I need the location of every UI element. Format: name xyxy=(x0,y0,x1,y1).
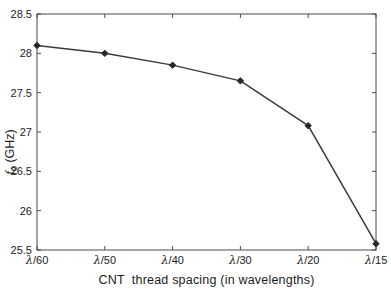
plot-area: 25.52626.52727.52828.5λ/60λ/50λ/40λ/30λ/… xyxy=(0,0,391,295)
y-tick-label: 27.5 xyxy=(11,87,32,99)
data-point-marker xyxy=(373,241,379,247)
x-tick-label: λ/40 xyxy=(160,253,184,267)
data-point-marker xyxy=(169,62,175,68)
data-line xyxy=(37,45,376,243)
plot-border xyxy=(37,14,376,250)
y-axis-label-units: (GHz) xyxy=(3,129,17,166)
data-point-marker xyxy=(102,50,108,56)
x-tick-label: λ/15 xyxy=(364,253,388,267)
y-tick-label: 27 xyxy=(20,126,32,138)
y-axis-label-f: f xyxy=(2,171,17,175)
x-axis-label: CNT thread spacing (in wavelengths) xyxy=(37,273,376,287)
x-tick-label: λ/50 xyxy=(93,253,117,267)
x-tick-label: λ/30 xyxy=(228,253,252,267)
y-tick-label: 28.5 xyxy=(11,8,32,20)
y-axis-label-subscript: 0 xyxy=(9,166,19,171)
y-axis-label: f0 (GHz) xyxy=(2,109,18,195)
line-chart-figure: 25.52626.52727.52828.5λ/60λ/50λ/40λ/30λ/… xyxy=(0,0,391,295)
x-tick-label: λ/20 xyxy=(296,253,320,267)
y-tick-label: 28 xyxy=(20,47,32,59)
x-tick-label: λ/60 xyxy=(25,253,49,267)
y-tick-label: 26 xyxy=(20,205,32,217)
data-point-marker xyxy=(34,42,40,48)
